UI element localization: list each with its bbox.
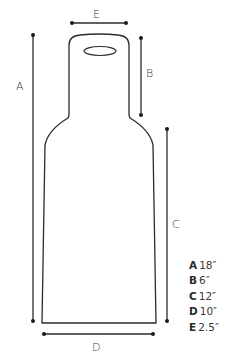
legend-row-b: B6″: [189, 273, 219, 288]
legend-row-a: A18″: [189, 258, 219, 273]
label-b: B: [146, 68, 153, 79]
handle-hole: [84, 47, 116, 56]
label-d: D: [92, 342, 100, 353]
dimension-c-line: [165, 127, 169, 323]
legend-value: 2.5″: [198, 321, 219, 333]
label-c: C: [172, 219, 180, 230]
legend-value: 6″: [199, 274, 210, 286]
label-e: E: [93, 9, 100, 20]
legend-value: 12″: [199, 290, 216, 302]
legend-key: E: [189, 321, 196, 333]
legend-row-c: C12″: [189, 289, 219, 304]
legend-row-e: E2.5″: [189, 320, 219, 335]
legend-value: 10″: [200, 305, 217, 317]
legend-value: 18″: [199, 259, 216, 271]
legend-key: B: [189, 274, 197, 286]
dimension-e-line: [70, 21, 128, 25]
label-a: A: [16, 81, 24, 92]
dimension-d-line: [42, 332, 155, 336]
bottle-outline: [42, 34, 156, 323]
dimension-b-line: [139, 36, 143, 117]
legend-key: A: [189, 259, 197, 271]
legend-key: C: [189, 290, 197, 302]
dimension-a-line: [31, 33, 35, 323]
dimensions-legend: A18″ B6″ C12″ D10″ E2.5″: [189, 258, 219, 335]
legend-key: D: [189, 305, 198, 317]
legend-row-d: D10″: [189, 304, 219, 319]
